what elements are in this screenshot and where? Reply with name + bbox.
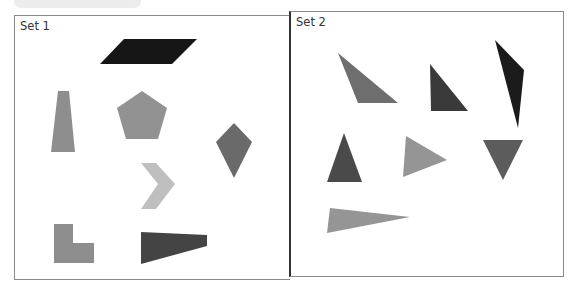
trapezoid-shape (51, 91, 75, 152)
l-shape-shape (54, 224, 94, 263)
long-thin-triangle-shape (327, 208, 410, 233)
chevron-shape (141, 163, 175, 209)
sliver-triangle-shape (495, 40, 524, 128)
obtuse-triangle-shape (338, 53, 398, 103)
right-triangle-shape (430, 64, 468, 111)
inverted-triangle-shape (483, 140, 523, 180)
shapes-layer (0, 0, 572, 287)
set-2-shapes (327, 40, 524, 233)
pentagon-shape (117, 91, 167, 139)
acute-triangle-shape (327, 133, 362, 182)
right-pointing-triangle-shape (403, 136, 447, 177)
kite-shape (216, 123, 252, 178)
quadrilateral-wedge-shape (141, 232, 207, 264)
set-1-shapes (51, 39, 252, 264)
parallelogram-shape (100, 39, 197, 64)
